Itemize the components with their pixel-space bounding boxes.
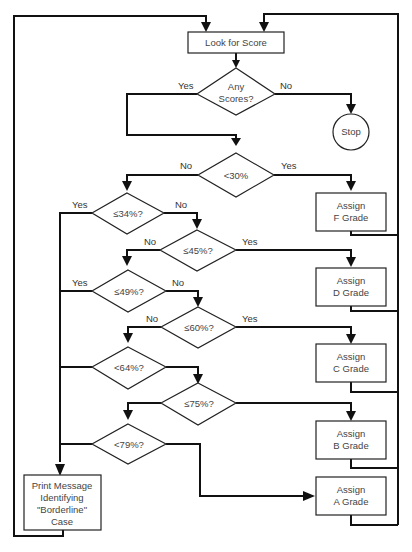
node-assign-d-line2: D Grade [333, 287, 369, 298]
node-lt30: <30% [198, 153, 274, 197]
edge-label-le45-yes: Yes [242, 236, 258, 247]
node-assign-a: Assign A Grade [316, 477, 386, 515]
edge-label-le49-yes: Yes [72, 277, 88, 288]
edge-label-le60-no: No [146, 313, 158, 324]
node-le64-label: <64%? [114, 362, 144, 373]
arrow-down-icon [192, 219, 202, 229]
arrow-down-icon [231, 138, 241, 146]
edge-label-le45-no: No [144, 236, 156, 247]
node-borderline-line4: Case [51, 516, 73, 527]
node-assign-d-line1: Assign [337, 275, 366, 286]
arrow-down-icon [346, 334, 356, 344]
node-assign-c: Assign C Grade [316, 344, 386, 382]
node-look-for-score-label: Look for Score [205, 37, 267, 48]
node-assign-d: Assign D Grade [316, 268, 386, 306]
connector-le45-yes [236, 250, 351, 263]
connector-lt30-yes [274, 175, 351, 187]
connector-le75-yes [236, 403, 351, 417]
edge-label-any-yes: Yes [178, 80, 194, 91]
node-borderline-line1: Print Message [32, 480, 93, 491]
arrow-down-icon [123, 333, 133, 343]
node-le49-label: ≤49%? [114, 286, 144, 297]
node-le45-label: ≤45%? [183, 245, 213, 256]
node-assign-a-line1: Assign [337, 484, 366, 495]
node-assign-a-line2: A Grade [334, 496, 369, 507]
node-assign-c-line2: C Grade [333, 363, 369, 374]
node-assign-f-line2: F Grade [334, 212, 369, 223]
node-borderline-line3: "Borderline" [37, 504, 87, 515]
arrow-down-icon [232, 60, 240, 68]
arrow-down-icon [122, 181, 132, 191]
node-le60: ≤60%? [161, 307, 236, 348]
arrow-down-icon [122, 256, 132, 266]
node-any-scores: Any Scores? [197, 68, 275, 115]
node-le79-label: <79%? [114, 439, 144, 450]
arrow-down-icon [123, 410, 133, 420]
node-lt30-label: <30% [224, 170, 249, 181]
node-le75-label: ≤75%? [184, 398, 214, 409]
connector-le34-yes [60, 213, 92, 462]
connector-le75-no [128, 403, 161, 416]
arrow-down-icon [259, 22, 269, 32]
node-le34: ≤34%? [92, 193, 164, 234]
arrow-right-icon [303, 491, 315, 501]
node-le45: ≤45%? [160, 230, 236, 271]
arrow-down-icon [346, 181, 356, 191]
edge-label-any-no: No [280, 80, 292, 91]
node-stop: Stop [333, 114, 369, 150]
arrow-down-icon [193, 297, 203, 307]
node-borderline-line2: Identifying [40, 492, 83, 503]
node-le64: <64%? [92, 347, 166, 389]
connector-le79-no [166, 444, 309, 496]
node-le34-label: ≤34%? [113, 208, 143, 219]
edge-label-le34-no: No [175, 199, 187, 210]
return-a [351, 514, 398, 525]
node-look-for-score: Look for Score [188, 32, 284, 53]
edge-label-le60-yes: Yes [242, 313, 258, 324]
node-assign-b-line1: Assign [337, 428, 366, 439]
connector-le60-yes [236, 327, 351, 340]
edge-label-le49-no: No [172, 277, 184, 288]
arrow-down-icon [201, 22, 211, 32]
edge-label-lt30-no: No [180, 160, 192, 171]
edge-label-le34-yes: Yes [72, 199, 88, 210]
node-assign-b: Assign B Grade [316, 421, 386, 459]
node-assign-f: Assign F Grade [316, 193, 386, 231]
connector-any-no [275, 94, 351, 110]
node-assign-c-line1: Assign [337, 351, 366, 362]
node-any-scores-line2: Scores? [219, 93, 254, 104]
arrow-down-icon [55, 464, 65, 476]
connector-le64-no [166, 367, 198, 380]
node-le60-label: ≤60%? [184, 322, 214, 333]
node-assign-b-line2: B Grade [333, 440, 368, 451]
node-assign-f-line1: Assign [337, 200, 366, 211]
arrow-down-icon [346, 257, 356, 267]
arrow-down-icon [346, 104, 356, 114]
connector-lt30-no [127, 175, 198, 186]
node-le79: <79%? [92, 424, 166, 464]
node-any-scores-line1: Any [228, 81, 245, 92]
arrow-down-icon [346, 411, 356, 421]
edge-label-lt30-yes: Yes [281, 160, 297, 171]
node-stop-label: Stop [341, 126, 361, 137]
flowchart: Look for Score Any Scores? Yes No Stop <… [0, 0, 412, 552]
node-le75: ≤75%? [161, 383, 236, 425]
node-borderline-message: Print Message Identifying "Borderline" C… [24, 475, 101, 530]
node-le49: ≤49%? [92, 270, 166, 312]
